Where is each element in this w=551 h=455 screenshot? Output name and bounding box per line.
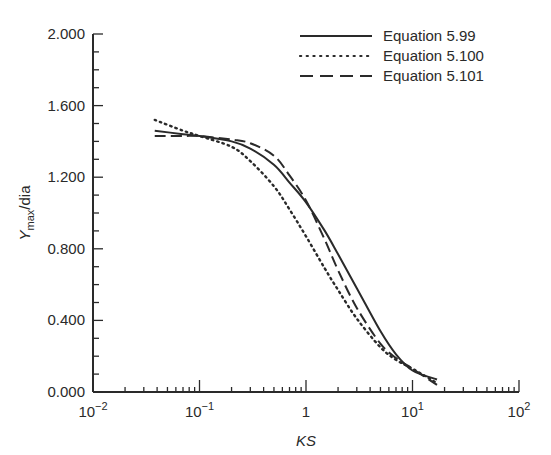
x-tick-label: 102 [508, 400, 531, 420]
legend-item-label: Equation 5.100 [383, 47, 484, 64]
y-axis-label: Ymax/dia [16, 185, 36, 241]
y-tick-label: 0.000 [47, 383, 85, 400]
chart-canvas: 0.0000.4000.8001.2001.6002.000 10−210−11… [0, 0, 551, 455]
legend-item-label: Equation 5.101 [383, 67, 484, 84]
x-axis-ticks: 10−210−11101102 [78, 380, 530, 420]
y-tick-label: 1.200 [47, 168, 85, 185]
curve-dashed [155, 136, 437, 385]
y-axis-label-rest: /dia [16, 185, 33, 210]
y-tick-label: 1.600 [47, 97, 85, 114]
plot-curves [155, 120, 437, 385]
x-tick-label: 101 [401, 400, 424, 420]
y-tick-label: 0.400 [47, 311, 85, 328]
y-tick-label: 0.800 [47, 240, 85, 257]
y-axis-ticks: 0.0000.4000.8001.2001.6002.000 [47, 25, 103, 400]
y-axis-label-sub: max [24, 209, 36, 230]
legend-item-label: Equation 5.99 [383, 27, 476, 44]
curve-dotted [155, 120, 437, 383]
x-tick-label: 1 [302, 403, 310, 420]
y-tick-label: 2.000 [47, 25, 85, 42]
curve-solid [155, 131, 437, 380]
x-tick-label: 10−2 [78, 400, 107, 420]
axes [93, 34, 519, 392]
x-axis-label: KS [296, 432, 316, 449]
x-tick-label: 10−1 [185, 400, 214, 420]
legend: Equation 5.99Equation 5.100Equation 5.10… [300, 27, 484, 84]
